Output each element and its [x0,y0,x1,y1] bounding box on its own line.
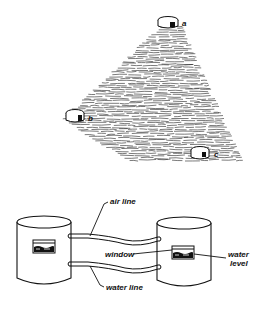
left-tank [17,216,71,284]
water-level-label-line2: level [230,259,249,268]
terrain-hatching [63,25,242,161]
gauge-a: a [158,17,187,29]
water-line-label: water line [106,283,143,292]
air-line-leader [90,202,108,236]
left-tank-window [33,240,55,253]
point-label-c: c [214,150,219,159]
right-tank-window [172,246,194,259]
diagram-canvas: a b c [0,0,266,309]
gauge-b: b [66,110,93,124]
water-line-pipe [68,262,161,273]
right-tank [157,217,211,286]
point-label-a: a [182,19,187,28]
point-label-b: b [88,114,93,123]
air-line-pipe [68,234,161,245]
gauge-c: c [191,147,219,160]
water-level-label-line1: water [228,250,250,259]
water-line-leader [90,266,104,287]
window-label: window [105,250,135,259]
air-line-label: air line [110,197,136,206]
